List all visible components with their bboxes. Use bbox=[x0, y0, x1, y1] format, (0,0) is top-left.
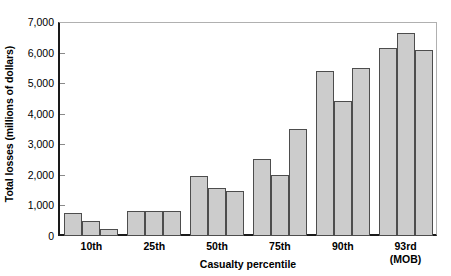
y-axis-tick-label: 0 bbox=[4, 230, 54, 242]
bar[interactable] bbox=[82, 221, 100, 236]
bar-chart: Total losses (millions of dollars) 01,00… bbox=[0, 0, 451, 276]
bar-group bbox=[64, 22, 118, 236]
bar[interactable] bbox=[397, 33, 415, 236]
plot-area bbox=[60, 22, 437, 236]
bar[interactable] bbox=[145, 211, 163, 236]
bar-group bbox=[379, 22, 433, 236]
bar[interactable] bbox=[253, 159, 271, 236]
x-axis-tick-label-main: 50th bbox=[206, 240, 228, 252]
y-axis-tick-mark bbox=[60, 205, 65, 206]
bar[interactable] bbox=[127, 211, 145, 236]
bar[interactable] bbox=[415, 50, 433, 236]
x-axis-tick-label: 25th bbox=[143, 240, 165, 253]
y-axis-tick-label: 7,000 bbox=[4, 16, 54, 28]
bar-group bbox=[253, 22, 307, 236]
y-axis-tick-mark bbox=[60, 175, 65, 176]
x-axis-tick-label-main: 75th bbox=[269, 240, 291, 252]
y-axis-tick-label: 1,000 bbox=[4, 199, 54, 211]
y-axis-tick-label: 6,000 bbox=[4, 47, 54, 59]
x-axis-tick-label: 50th bbox=[206, 240, 228, 253]
bar[interactable] bbox=[334, 101, 352, 236]
y-axis-tick-label: 2,000 bbox=[4, 169, 54, 181]
bar[interactable] bbox=[379, 48, 397, 236]
y-axis-tick-mark bbox=[60, 83, 65, 84]
bar-group bbox=[127, 22, 181, 236]
x-axis-tick-label: 90th bbox=[332, 240, 354, 253]
bar[interactable] bbox=[100, 229, 118, 236]
x-axis-tick-label: 75th bbox=[269, 240, 291, 253]
bar[interactable] bbox=[163, 211, 181, 236]
y-axis-tick-labels: 01,0002,0003,0004,0005,0006,0007,000 bbox=[0, 22, 54, 236]
x-axis-tick-label-main: 10th bbox=[81, 240, 103, 252]
bar[interactable] bbox=[316, 71, 334, 236]
bar[interactable] bbox=[352, 68, 370, 236]
bar-group bbox=[316, 22, 370, 236]
bar[interactable] bbox=[289, 129, 307, 236]
y-axis-tick-mark bbox=[60, 114, 65, 115]
x-axis-tick-label-main: 93rd bbox=[394, 240, 416, 252]
bar[interactable] bbox=[271, 175, 289, 236]
y-axis-tick-mark bbox=[60, 53, 65, 54]
x-axis-tick-label-main: 90th bbox=[332, 240, 354, 252]
bar-group bbox=[190, 22, 244, 236]
bar[interactable] bbox=[190, 176, 208, 236]
y-axis-tick-label: 4,000 bbox=[4, 108, 54, 120]
bar[interactable] bbox=[226, 191, 244, 236]
x-axis-tick-label-main: 25th bbox=[143, 240, 165, 252]
bar[interactable] bbox=[208, 188, 226, 236]
bar[interactable] bbox=[64, 213, 82, 236]
x-axis-tick-label: 10th bbox=[81, 240, 103, 253]
x-axis-title: Casualty percentile bbox=[58, 258, 438, 270]
y-axis-tick-label: 3,000 bbox=[4, 138, 54, 150]
y-axis-tick-mark bbox=[60, 144, 65, 145]
y-axis-tick-label: 5,000 bbox=[4, 77, 54, 89]
